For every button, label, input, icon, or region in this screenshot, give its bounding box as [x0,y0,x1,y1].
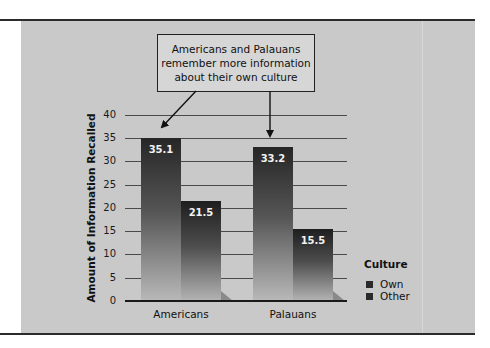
x-category-americans: Americans [153,308,208,320]
value-label-americans-other: 21.5 [189,207,214,301]
x-axis-line [125,300,347,302]
bar-palauans-other: 15.5 [293,229,333,301]
annotation-line-2: remember more information [161,56,310,70]
panel-stripe [422,21,423,333]
y-tick-0: 0 [98,295,116,306]
legend-title: Culture [364,258,408,270]
annotation-line-3: about their own culture [174,70,297,84]
bar-palauans-own: 33.2 [253,147,293,301]
x-category-palauans: Palauans [270,308,317,320]
gridline-40 [125,115,347,116]
legend-swatch-other [366,293,373,300]
value-label-palauans-own: 33.2 [261,153,286,301]
y-tick-20: 20 [98,202,116,213]
bar-americans-own: 35.1 [141,138,181,301]
bar-americans-other: 21.5 [181,201,221,301]
y-tick-25: 25 [98,179,116,190]
y-tick-40: 40 [98,109,116,120]
annotation-callout: Americans and Palauans remember more inf… [157,34,315,92]
y-tick-15: 15 [98,225,116,236]
legend-swatch-own [366,281,373,288]
y-tick-30: 30 [98,155,116,166]
legend-label-other: Other [380,290,410,302]
y-tick-5: 5 [98,272,116,283]
value-label-americans-own: 35.1 [149,144,174,301]
value-label-palauans-other: 15.5 [301,235,326,301]
y-axis-label: Amount of Information Recalled [85,113,97,302]
legend-item-other: Other [366,290,410,302]
legend-label-own: Own [380,278,404,290]
legend-item-own: Own [366,278,404,290]
bottom-rule [0,333,475,335]
y-tick-10: 10 [98,248,116,259]
annotation-line-1: Americans and Palauans [172,42,301,56]
y-tick-35: 35 [98,132,116,143]
